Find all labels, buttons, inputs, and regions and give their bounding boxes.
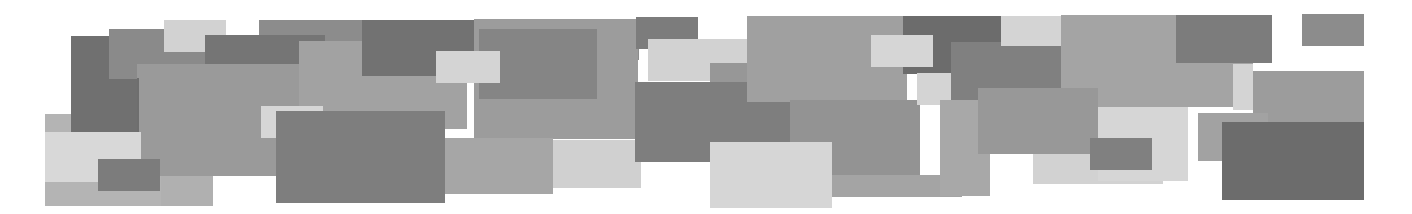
gray-rectangle xyxy=(1233,64,1253,110)
gray-rectangle xyxy=(276,111,445,203)
gray-rectangle xyxy=(1302,14,1364,46)
gray-rectangle xyxy=(710,63,750,83)
gray-rectangle xyxy=(1253,71,1364,123)
gray-rectangle xyxy=(445,138,553,194)
gray-rectangle xyxy=(161,176,213,206)
gray-rectangle xyxy=(98,159,160,191)
gray-rectangle xyxy=(553,140,641,188)
gray-rectangle xyxy=(1090,138,1152,170)
abstract-rectangle-banner xyxy=(0,0,1412,214)
gray-rectangle xyxy=(1222,122,1364,200)
gray-rectangle xyxy=(710,142,832,208)
gray-rectangle xyxy=(137,78,139,132)
gray-rectangle xyxy=(1176,15,1272,63)
gray-rectangle xyxy=(1001,16,1061,46)
gray-rectangle xyxy=(978,88,1098,154)
gray-rectangle xyxy=(871,35,933,67)
gray-rectangle xyxy=(436,51,500,83)
